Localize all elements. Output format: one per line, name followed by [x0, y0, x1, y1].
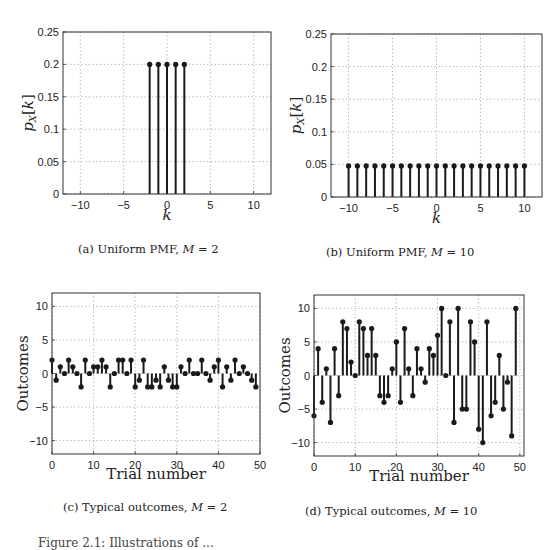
- data-point: [182, 62, 187, 67]
- svg-text:0: 0: [42, 368, 48, 380]
- data-point: [434, 163, 439, 168]
- svg-text:5: 5: [42, 334, 48, 346]
- data-point: [228, 378, 233, 383]
- data-point: [377, 393, 382, 398]
- data-point: [224, 364, 229, 369]
- data-point: [149, 384, 154, 389]
- data-point: [386, 393, 391, 398]
- data-point: [253, 384, 258, 389]
- data-point: [394, 339, 399, 344]
- data-point: [173, 62, 178, 67]
- data-point: [120, 357, 125, 362]
- data-point: [99, 357, 104, 362]
- data-point: [390, 163, 395, 168]
- data-point: [79, 384, 84, 389]
- data-point: [443, 373, 448, 378]
- data-point: [174, 384, 179, 389]
- caption-a: (a) Uniform PMF, M = 2: [78, 242, 219, 256]
- data-point: [398, 400, 403, 405]
- data-point: [87, 371, 92, 376]
- data-point: [245, 371, 250, 376]
- data-point: [505, 380, 510, 385]
- svg-text:0.15: 0.15: [306, 93, 327, 105]
- data-point: [447, 319, 452, 324]
- svg-text:10: 10: [518, 202, 530, 214]
- svg-text:−5: −5: [117, 199, 130, 211]
- data-point: [487, 163, 492, 168]
- data-point: [141, 357, 146, 362]
- data-point: [373, 353, 378, 358]
- x-axis-label: k: [432, 209, 441, 227]
- svg-text:10: 10: [87, 459, 99, 471]
- data-point: [427, 346, 432, 351]
- plot-c-typical-outcomes-m2: 01020304050−10−50510Trial numberOutcomes: [14, 293, 266, 483]
- data-point: [348, 359, 353, 364]
- data-point: [232, 357, 237, 362]
- plot-b-uniform-pmf-m10: −10−5051000.050.10.150.20.25kpX[k]: [287, 28, 542, 227]
- data-point: [320, 400, 325, 405]
- data-point: [203, 371, 208, 376]
- data-point: [112, 371, 117, 376]
- svg-text:0: 0: [49, 459, 55, 471]
- data-point: [70, 364, 75, 369]
- data-point: [418, 366, 423, 371]
- data-point: [431, 353, 436, 358]
- data-point: [416, 163, 421, 168]
- data-point: [62, 371, 67, 376]
- data-point: [497, 353, 502, 358]
- svg-text:40: 40: [473, 461, 485, 473]
- svg-text:0: 0: [321, 191, 327, 203]
- data-point: [406, 366, 411, 371]
- data-point: [74, 371, 79, 376]
- data-point: [340, 319, 345, 324]
- svg-text:0: 0: [311, 461, 317, 473]
- data-point: [472, 339, 477, 344]
- svg-text:−10: −10: [291, 437, 310, 449]
- data-point: [328, 420, 333, 425]
- svg-text:10: 10: [36, 300, 48, 312]
- svg-text:−5: −5: [386, 202, 399, 214]
- y-axis-label: pX[k]: [19, 94, 38, 132]
- svg-text:5: 5: [304, 336, 310, 348]
- data-point: [513, 163, 518, 168]
- data-point: [162, 364, 167, 369]
- svg-text:5: 5: [207, 199, 213, 211]
- svg-text:0.25: 0.25: [38, 26, 59, 38]
- data-point: [207, 378, 212, 383]
- data-point: [361, 326, 366, 331]
- x-axis-label: k: [162, 206, 171, 224]
- data-point: [54, 378, 59, 383]
- data-point: [468, 319, 473, 324]
- data-point: [195, 371, 200, 376]
- x-axis-label: Trial number: [369, 467, 470, 485]
- data-point: [484, 319, 489, 324]
- x-axis-label: Trial number: [106, 465, 207, 483]
- caption-d: (d) Typical outcomes, M = 10: [305, 504, 477, 518]
- svg-text:0.05: 0.05: [38, 156, 59, 168]
- svg-text:50: 50: [254, 459, 266, 471]
- data-point: [353, 373, 358, 378]
- svg-text:−5: −5: [297, 403, 310, 415]
- data-point: [237, 371, 242, 376]
- figure-caption-cut: Figure 2.1: Illustrations of ...: [38, 536, 214, 550]
- data-point: [336, 393, 341, 398]
- data-point: [372, 163, 377, 168]
- data-point: [493, 400, 498, 405]
- data-point: [435, 333, 440, 338]
- caption-b: (b) Uniform PMF, M = 10: [326, 245, 474, 259]
- data-point: [390, 366, 395, 371]
- svg-text:0.1: 0.1: [44, 123, 59, 135]
- data-point: [410, 393, 415, 398]
- data-point: [58, 364, 63, 369]
- svg-text:−5: −5: [35, 401, 48, 413]
- data-point: [95, 364, 100, 369]
- svg-text:0.2: 0.2: [44, 58, 59, 70]
- y-axis-label: pX[k]: [287, 97, 306, 135]
- data-point: [178, 364, 183, 369]
- svg-text:−10: −10: [71, 199, 90, 211]
- svg-text:0.05: 0.05: [306, 158, 327, 170]
- svg-text:10: 10: [298, 302, 310, 314]
- data-point: [480, 440, 485, 445]
- data-point: [495, 163, 500, 168]
